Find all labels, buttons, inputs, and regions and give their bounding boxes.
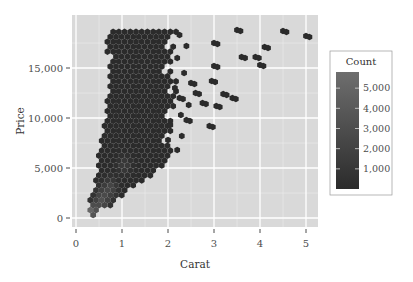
legend-tick-label: 3,000 — [363, 123, 390, 134]
legend-tick-label: 5,000 — [363, 82, 390, 93]
legend-tick-label: 2,000 — [363, 143, 390, 154]
x-tick-label: 5 — [303, 238, 309, 249]
x-axis-title: Carat — [180, 258, 211, 270]
y-axis-title: Price — [14, 107, 26, 135]
x-tick-label: 4 — [257, 238, 263, 249]
x-tick-label: 2 — [165, 238, 171, 249]
y-axis: 05,00010,00015,000 — [28, 63, 70, 224]
legend-tick-label: 1,000 — [363, 163, 390, 174]
legend-tick-label: 4,000 — [363, 103, 390, 114]
legend-title: Count — [346, 56, 377, 67]
y-tick-label: 0 — [57, 213, 63, 224]
y-tick-label: 5,000 — [34, 163, 63, 174]
x-tick-label: 1 — [119, 238, 125, 249]
legend-colorbar — [336, 72, 359, 189]
x-tick-label: 3 — [211, 238, 217, 249]
y-tick-label: 10,000 — [28, 113, 63, 124]
y-tick-label: 15,000 — [28, 63, 63, 74]
x-tick-label: 0 — [73, 238, 79, 249]
x-axis: 012345 — [73, 229, 309, 249]
hexbin-chart: 012345 05,00010,00015,000 Carat Price Co… — [0, 0, 413, 282]
legend: Count 1,0002,0003,0004,0005,000 — [330, 51, 392, 195]
